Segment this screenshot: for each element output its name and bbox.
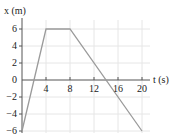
svg-text:4: 4 xyxy=(12,40,17,51)
svg-text:12: 12 xyxy=(89,83,99,94)
svg-text:4: 4 xyxy=(44,83,49,94)
svg-text:−6: −6 xyxy=(6,125,17,134)
svg-text:6: 6 xyxy=(12,23,17,34)
svg-text:2: 2 xyxy=(12,57,17,68)
x-axis-label: t (s) xyxy=(153,74,169,86)
svg-text:0: 0 xyxy=(12,74,17,85)
svg-text:−2: −2 xyxy=(6,91,17,102)
svg-text:20: 20 xyxy=(137,83,147,94)
y-tick-labels: 6 4 2 0 −2 −4 −6 xyxy=(6,23,17,134)
x-tick-labels: 4 8 12 16 20 xyxy=(44,83,148,94)
y-axis-label: x (m) xyxy=(4,5,26,17)
axes xyxy=(19,18,150,133)
svg-text:8: 8 xyxy=(68,83,73,94)
svg-text:16: 16 xyxy=(113,83,123,94)
svg-text:−4: −4 xyxy=(6,108,17,119)
position-time-chart: x (m) t (s) 6 4 2 0 −2 −4 −6 4 8 12 16 2… xyxy=(0,0,177,134)
